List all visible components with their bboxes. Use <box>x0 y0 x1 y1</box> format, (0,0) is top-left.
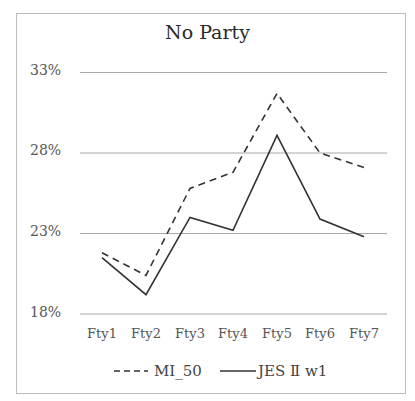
x-tick-fty6: Fty6 <box>298 326 342 341</box>
legend-item-mi50: MI_50 <box>114 362 202 380</box>
dashed-line-icon <box>114 366 148 376</box>
x-tick-fty1: Fty1 <box>80 326 124 341</box>
x-tick-fty5: Fty5 <box>255 326 299 341</box>
series-jes-line <box>102 135 364 294</box>
x-tick-fty2: Fty2 <box>124 326 168 341</box>
series-mi50-line <box>102 93 364 275</box>
legend-item-jes: JES Ⅱ w1 <box>220 362 327 380</box>
x-tick-fty4: Fty4 <box>211 326 255 341</box>
legend-label-mi50: MI_50 <box>154 362 202 380</box>
x-tick-fty3: Fty3 <box>168 326 212 341</box>
x-tick-fty7: Fty7 <box>342 326 386 341</box>
legend-label-jes: JES Ⅱ w1 <box>258 362 327 380</box>
solid-line-icon <box>220 366 256 376</box>
